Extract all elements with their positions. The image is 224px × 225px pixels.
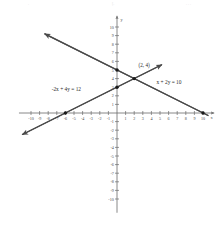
y-tick-label: 1 xyxy=(112,102,114,107)
x-tick-label: 1 xyxy=(125,116,127,121)
y-tick-label: 6 xyxy=(112,59,114,64)
y-tick-label: 10 xyxy=(110,25,114,30)
faint-mark: . . . xyxy=(186,1,191,6)
y-tick-label: 4 xyxy=(112,76,114,81)
x-tick-label: 2 xyxy=(133,116,135,121)
x-tick-label: -2 xyxy=(98,116,101,121)
x-tick-label: -10 xyxy=(28,116,33,121)
x-tick-label: -4 xyxy=(81,116,84,121)
x-tick-label: 3 xyxy=(142,116,144,121)
y-tick-label: -2 xyxy=(110,128,113,133)
x-tick-label: -3 xyxy=(89,116,92,121)
y-tick-label: 2 xyxy=(112,93,114,98)
coordinate-graph: .[.. . . -10-9-8-7-6-5-4-3-2-11234567891… xyxy=(0,0,224,225)
y-axis-name: y xyxy=(121,17,124,22)
y-tick-label: -1 xyxy=(110,119,113,124)
equation-label-1: -2x + 4y = 12 xyxy=(52,86,82,92)
x-tick-label: 4 xyxy=(150,116,152,121)
data-points xyxy=(64,68,205,114)
x-tick-label: 6 xyxy=(168,116,170,121)
point--6-0 xyxy=(64,111,67,114)
x-axis-name: x xyxy=(210,115,213,120)
x-tick-label: 8 xyxy=(185,116,187,121)
y-tick-label: -6 xyxy=(110,162,113,167)
y-tick-label: -4 xyxy=(110,145,113,150)
equation-label-2: x + 2y = 10 xyxy=(157,79,182,85)
y-tick-label: -7 xyxy=(110,171,113,176)
point-0-3 xyxy=(115,86,118,89)
intersection-label: (2, 4) xyxy=(139,62,151,69)
y-tick-label: -10 xyxy=(108,197,113,202)
y-tick-label: 9 xyxy=(112,33,114,38)
point-0-5 xyxy=(115,68,118,71)
x-tick-label: 7 xyxy=(176,116,178,121)
point-2-4 xyxy=(133,77,136,80)
graph-canvas: -10-9-8-7-6-5-4-3-2-11234567891010987654… xyxy=(0,0,224,225)
line-2-start-arrow xyxy=(45,34,208,116)
x-tick-label: 10 xyxy=(201,116,205,121)
y-tick-label: -8 xyxy=(110,179,113,184)
point-10-0 xyxy=(201,111,204,114)
faint-mark: . xyxy=(28,1,29,6)
x-tick-label: 9 xyxy=(193,116,195,121)
y-tick-label: -5 xyxy=(110,154,113,159)
x-tick-label: -6 xyxy=(64,116,67,121)
x-tick-label: -5 xyxy=(72,116,75,121)
x-tick-label: 5 xyxy=(159,116,161,121)
faint-mark: [. xyxy=(112,1,114,6)
x-tick-label: -8 xyxy=(46,116,49,121)
line-1-start-arrow xyxy=(22,65,161,135)
y-tick-label: -9 xyxy=(110,188,113,193)
y-tick-label: -3 xyxy=(110,136,113,141)
top-faint-artifacts: .[.. . . xyxy=(0,0,224,11)
y-tick-label: 7 xyxy=(112,50,114,55)
y-tick-label: 8 xyxy=(112,42,114,47)
tick-labels: -10-9-8-7-6-5-4-3-2-11234567891010987654… xyxy=(28,17,213,202)
x-tick-label: -9 xyxy=(38,116,41,121)
